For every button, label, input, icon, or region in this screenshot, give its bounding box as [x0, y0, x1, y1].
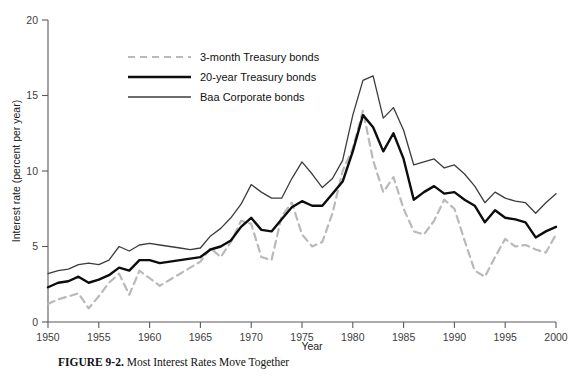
x-tick-label: 1965 [189, 331, 213, 343]
y-tick-label: 0 [32, 316, 38, 328]
x-tick-label: 1955 [87, 331, 111, 343]
x-tick-label: 1995 [494, 331, 518, 343]
x-tick-label: 2000 [544, 331, 568, 343]
series-line-2 [48, 76, 556, 274]
x-tick-label: 1980 [341, 331, 365, 343]
legend-label-2: Baa Corporate bonds [200, 91, 305, 103]
figure-caption: FIGURE 9-2. Most Interest Rates Move Tog… [58, 356, 289, 368]
x-tick-label: 1950 [36, 331, 60, 343]
chart-series-group [48, 76, 556, 309]
x-tick-label: 1985 [392, 331, 416, 343]
x-tick-label: 1990 [443, 331, 467, 343]
y-axis-tick-labels: 05101520 [26, 14, 38, 328]
series-line-1 [48, 115, 556, 287]
y-tick-label: 20 [26, 14, 38, 26]
interest-rate-line-chart: 05101520 1950195519601965197019751980198… [0, 0, 583, 376]
legend-label-0: 3-month Treasury bonds [200, 51, 320, 63]
x-axis-title: Year [301, 340, 323, 352]
figure-container: 05101520 1950195519601965197019751980198… [0, 0, 583, 376]
y-axis-title: Interest rate (percent per year) [10, 100, 22, 242]
y-tick-label: 10 [26, 165, 38, 177]
y-axis-ticks [42, 20, 48, 322]
x-tick-label: 1960 [138, 331, 162, 343]
figure-caption-number: FIGURE 9-2. [58, 356, 124, 368]
x-tick-label: 1970 [240, 331, 264, 343]
chart-axes: 05101520 1950195519601965197019751980198… [26, 14, 568, 343]
figure-caption-title: Most Interest Rates Move Together [127, 356, 290, 368]
series-line-0 [48, 111, 556, 309]
y-tick-label: 15 [26, 89, 38, 101]
legend-label-1: 20-year Treasury bonds [200, 71, 317, 83]
axis-lines [48, 20, 556, 322]
x-axis-ticks [48, 322, 556, 328]
chart-legend: 3-month Treasury bonds20-year Treasury b… [128, 51, 320, 103]
y-tick-label: 5 [32, 240, 38, 252]
